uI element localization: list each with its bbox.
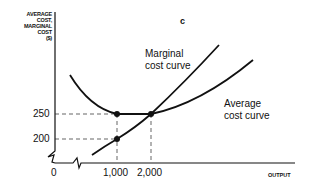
point-min-ac	[114, 111, 120, 117]
marginal-cost-curve	[92, 45, 219, 155]
average-cost-curve	[70, 60, 253, 114]
point-intersection	[148, 111, 154, 117]
point-mc-1000	[114, 136, 120, 142]
y-axis	[48, 12, 55, 163]
chart-plot	[0, 0, 312, 188]
x-axis	[55, 158, 295, 168]
